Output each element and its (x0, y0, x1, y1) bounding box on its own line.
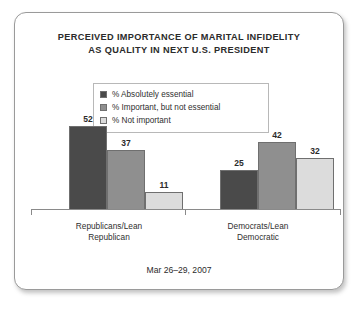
category-label-republicans-line-1: Republicans/Lean (76, 221, 142, 231)
x-axis-line (31, 209, 341, 210)
bar-value-rep-important-not-essential: 37 (107, 138, 145, 148)
chart-frame: PERCEIVED IMPORTANCE OF MARITAL INFIDELI… (14, 12, 344, 290)
bar-value-dem-important-not-essential: 42 (258, 130, 296, 140)
bar-rep-important-not-essential (107, 150, 145, 210)
x-axis-tick-center (185, 209, 186, 215)
plot-area: 52 37 11 25 42 32 Republicans/Lean Repub… (15, 13, 345, 291)
bar-dem-not-important (296, 158, 334, 210)
category-label-republicans-line-2: Republican (88, 232, 130, 242)
bar-value-dem-absolutely-essential: 25 (220, 158, 258, 168)
category-label-democrats: Democrats/Lean Democratic (193, 221, 323, 243)
bar-value-rep-not-important: 11 (145, 180, 183, 190)
category-label-democrats-line-1: Democrats/Lean (228, 221, 289, 231)
category-label-democrats-line-2: Democratic (237, 232, 279, 242)
x-axis-tick-left (31, 209, 32, 215)
bar-rep-absolutely-essential (69, 126, 107, 210)
bar-value-dem-not-important: 32 (296, 146, 334, 156)
bar-value-rep-absolutely-essential: 52 (69, 114, 107, 124)
x-axis (31, 209, 341, 215)
chart-footnote: Mar 26–29, 2007 (15, 265, 343, 275)
category-label-republicans: Republicans/Lean Republican (45, 221, 173, 243)
bar-dem-absolutely-essential (220, 170, 258, 211)
x-axis-tick-right (340, 209, 341, 215)
bar-rep-not-important (145, 192, 183, 210)
bar-dem-important-not-essential (258, 142, 296, 210)
